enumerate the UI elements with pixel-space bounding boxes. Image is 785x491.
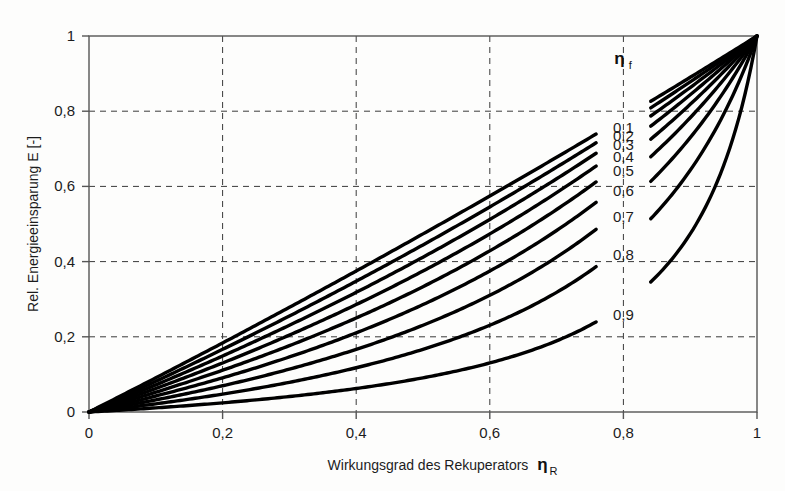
- curve-label-0-5: 0,5: [613, 162, 634, 179]
- curve-group-0-8: 0,8: [89, 36, 757, 412]
- curve-label-0-8: 0,8: [613, 246, 634, 263]
- curve-label-0-9: 0,9: [613, 306, 634, 323]
- curve-label-0-6: 0,6: [613, 182, 634, 199]
- y-axis-tick-label: 1: [67, 27, 75, 44]
- x-axis-tick-label: 0: [85, 424, 93, 441]
- data-curve-right-0-5: [651, 36, 757, 139]
- curve-group-0-5: 0,5: [89, 36, 757, 412]
- y-axis-tick-label: 0,2: [54, 328, 75, 345]
- y-axis-tick-label: 0: [67, 403, 75, 420]
- curve-group-0-6: 0,6: [89, 36, 757, 412]
- y-axis-tick-label: 0,8: [54, 102, 75, 119]
- curve-group-0-1: 0,1: [89, 36, 757, 412]
- legend-eta-subscript: f: [629, 59, 633, 71]
- y-axis-tick-label: 0,6: [54, 177, 75, 194]
- plot-frame: [89, 36, 757, 412]
- x-axis-tick-label: 0,4: [346, 424, 367, 441]
- curve-label-0-7: 0,7: [613, 208, 634, 225]
- x-axis-tick-label: 0,2: [212, 424, 233, 441]
- y-axis-title: Rel. Energieeinsparung E [-]: [25, 136, 41, 312]
- x-axis-tick-label: 0,6: [479, 424, 500, 441]
- curve-group-0-4: 0,4: [89, 36, 757, 412]
- y-axis-tick-label: 0,4: [54, 253, 75, 270]
- x-axis-tick-label: 1: [753, 424, 761, 441]
- curve-group-0-9: 0,9: [89, 36, 757, 412]
- x-axis-title-eta-symbol: η: [537, 455, 547, 474]
- chart-canvas: 00,20,40,60,8100,20,40,60,810,10,20,30,4…: [0, 0, 785, 491]
- x-axis-title: Wirkungsgrad des Rekuperators: [328, 457, 529, 473]
- curve-group-0-3: 0,3: [89, 36, 757, 412]
- legend-eta-symbol: η: [614, 49, 624, 68]
- chart-figure: 00,20,40,60,8100,20,40,60,810,10,20,30,4…: [0, 0, 785, 491]
- curve-group-0-2: 0,2: [89, 36, 757, 412]
- x-axis-title-eta-subscript: R: [549, 465, 557, 477]
- x-axis-tick-label: 0,8: [613, 424, 634, 441]
- curve-group-0-7: 0,7: [89, 36, 757, 412]
